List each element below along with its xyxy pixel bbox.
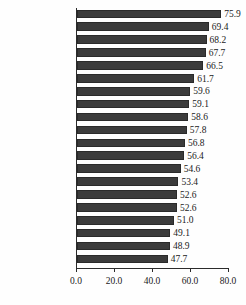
- bar-value-label: 59.1: [192, 98, 209, 110]
- bar-row: Finland58.6: [76, 111, 228, 123]
- bar-row: Denmark61.7: [76, 73, 228, 85]
- bar-value-label: 52.6: [180, 189, 197, 201]
- bar: [77, 61, 203, 70]
- bar-row: Portugal75.9: [76, 8, 228, 20]
- bar-row: Ireland53.4: [76, 176, 228, 188]
- bar-row: Austria52.6: [76, 202, 228, 214]
- bar: [77, 151, 184, 160]
- bar-value-label: 67.7: [209, 47, 226, 59]
- x-axis-tick-label: 40.0: [144, 276, 161, 286]
- x-axis-tick: [76, 268, 77, 272]
- bar-value-label: 47.7: [171, 253, 188, 265]
- bar-row: UK52.6: [76, 189, 228, 201]
- bar-value-label: 59.6: [193, 85, 210, 97]
- x-axis-tick: [190, 268, 191, 272]
- bar: [77, 87, 190, 96]
- bar-value-label: 56.8: [188, 137, 205, 149]
- bar: [77, 48, 206, 57]
- bar-value-label: 61.7: [197, 73, 214, 85]
- bar-value-label: 57.8: [190, 124, 207, 136]
- bar: [77, 229, 170, 238]
- bar: [77, 139, 185, 148]
- bar-row: Italy47.7: [76, 253, 228, 265]
- bar: [77, 126, 187, 135]
- bar: [77, 164, 181, 173]
- bar-value-label: 66.5: [206, 60, 223, 72]
- bar-value-label: 53.4: [181, 176, 198, 188]
- bar: [77, 74, 194, 83]
- x-axis-tick-label: 0.0: [70, 276, 82, 286]
- bar: [77, 255, 168, 264]
- bar-value-label: 54.6: [184, 163, 201, 175]
- bar-row: Spain51.0: [76, 214, 228, 226]
- bar: [77, 10, 221, 19]
- x-axis-tick: [228, 268, 229, 272]
- x-axis-tick: [152, 268, 153, 272]
- bar-value-label: 52.6: [180, 202, 197, 214]
- bar-chart: Portugal75.9Switzerland69.4Japan68.2Norw…: [0, 0, 246, 305]
- bar: [77, 22, 209, 31]
- bar: [77, 216, 174, 225]
- bar: [77, 35, 207, 44]
- bar-row: NL56.8: [76, 137, 228, 149]
- bar: [77, 242, 170, 251]
- bar-value-label: 51.0: [177, 214, 194, 226]
- bar-row: Sweden66.5: [76, 60, 228, 72]
- x-axis-tick-label: 60.0: [182, 276, 199, 286]
- bar: [77, 177, 178, 186]
- bar: [77, 190, 177, 199]
- bar: [77, 113, 188, 122]
- bar-row: Belgium49.1: [76, 227, 228, 239]
- x-axis-tick-label: 20.0: [106, 276, 123, 286]
- bar-row: NZ59.6: [76, 85, 228, 97]
- bar-value-label: 56.4: [187, 150, 204, 162]
- bar-value-label: 75.9: [224, 8, 241, 20]
- bar-row: France56.4: [76, 150, 228, 162]
- bar-row: US57.8: [76, 124, 228, 136]
- bar-row: Germany48.9: [76, 240, 228, 252]
- bar-value-label: 69.4: [212, 21, 229, 33]
- bar-value-label: 58.6: [191, 111, 208, 123]
- bar-value-label: 49.1: [173, 227, 190, 239]
- bar-value-label: 68.2: [210, 34, 227, 46]
- bar-row: Canada54.6: [76, 163, 228, 175]
- x-axis-tick: [114, 268, 115, 272]
- bar-value-label: 48.9: [173, 240, 190, 252]
- plot-area: Portugal75.9Switzerland69.4Japan68.2Norw…: [76, 8, 228, 266]
- bar: [77, 203, 177, 212]
- bar-row: Switzerland69.4: [76, 21, 228, 33]
- bar-row: Japan68.2: [76, 34, 228, 46]
- bar: [77, 100, 189, 109]
- bar-row: Australia59.1: [76, 98, 228, 110]
- x-axis-tick-label: 80.0: [220, 276, 237, 286]
- bar-row: Norway67.7: [76, 47, 228, 59]
